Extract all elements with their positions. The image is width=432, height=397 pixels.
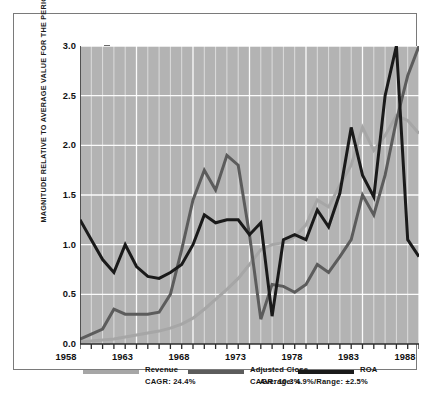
y-tick-label: 0.5: [63, 289, 76, 299]
legend-label: Revenue: [145, 365, 178, 374]
chart-figure: MAGNITUDE RELATIVE TO AVERAGE VALUE FOR …: [0, 0, 432, 397]
x-tick-label: 1958: [55, 352, 76, 362]
plot-area: [80, 46, 419, 344]
x-tick-label: 1963: [112, 352, 133, 362]
x-tick-label: 1973: [225, 352, 246, 362]
y-tick-label: 1.0: [63, 240, 76, 250]
legend-annotation: CAGR: 24.4%: [145, 377, 196, 386]
plot-svg: [80, 46, 419, 351]
y-tick-label: 3.0: [63, 41, 76, 51]
chart-legend: RevenueCAGR: 24.4%Adjusted CloseCAGR: 10…: [28, 366, 432, 397]
x-tick-label: 1968: [168, 352, 189, 362]
chart-frame: MAGNITUDE RELATIVE TO AVERAGE VALUE FOR …: [13, 13, 417, 370]
legend-annotation: Average: 4.9%/Range: ±2.5%: [260, 377, 368, 386]
legend-swatch: [188, 370, 244, 374]
y-axis-ticks: 0.00.51.01.52.02.53.0: [44, 38, 76, 352]
y-tick-label: 0.0: [63, 339, 76, 349]
legend-swatch: [298, 370, 354, 374]
x-tick-label: 1988: [394, 352, 415, 362]
x-tick-label: 1978: [281, 352, 302, 362]
legend-label: ROA: [360, 365, 377, 374]
y-tick-label: 2.0: [63, 140, 76, 150]
y-tick-label: 1.5: [63, 190, 76, 200]
y-tick-label: 2.5: [63, 91, 76, 101]
x-tick-label: 1983: [338, 352, 359, 362]
legend-swatch: [83, 370, 139, 374]
